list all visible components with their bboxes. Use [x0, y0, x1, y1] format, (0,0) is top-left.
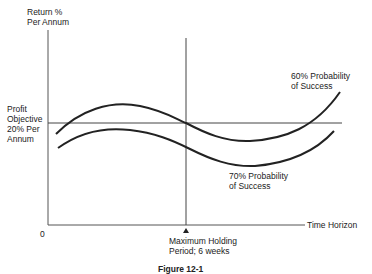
curve-60-label-line1: 60% Probability: [291, 71, 350, 81]
curve-70-percent: [58, 129, 334, 166]
x-axis-label: Time Horizon: [307, 220, 357, 230]
max-holding-label-line2: Period; 6 weeks: [169, 246, 237, 256]
y-axis-label-line1: Return %: [27, 7, 69, 17]
figure-caption-text: Figure 12-1: [158, 264, 203, 274]
profit-objective-label: Profit Objective 20% Per Annum: [7, 104, 42, 144]
curve-60-percent: [56, 92, 340, 141]
origin-label: 0: [40, 229, 45, 239]
profit-objective-line1: Profit: [7, 104, 42, 114]
curve-60-label: 60% Probability of Success: [291, 71, 350, 91]
marker-triangle-icon: [183, 228, 189, 233]
x-axis-label-text: Time Horizon: [307, 220, 357, 230]
y-axis-label: Return % Per Annum: [27, 7, 69, 27]
figure-caption: Figure 12-1: [158, 264, 203, 274]
curve-60-label-line2: of Success: [291, 81, 350, 91]
max-holding-period-label: Maximum Holding Period; 6 weeks: [169, 236, 237, 256]
curve-70-label-line1: 70% Probability: [229, 171, 288, 181]
origin-label-text: 0: [40, 229, 45, 239]
max-holding-label-line1: Maximum Holding: [169, 236, 237, 246]
curve-70-label: 70% Probability of Success: [229, 171, 288, 191]
profit-objective-line3: 20% Per: [7, 124, 42, 134]
y-axis-label-line2: Per Annum: [27, 17, 69, 27]
profit-objective-line4: Annum: [7, 134, 42, 144]
profit-objective-line2: Objective: [7, 114, 42, 124]
curve-70-label-line2: of Success: [229, 181, 288, 191]
